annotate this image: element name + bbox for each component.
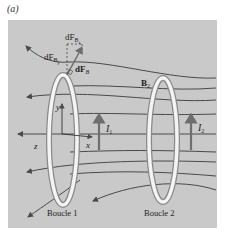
field-line-4 bbox=[70, 113, 216, 114]
label-loop-2: Boucle 2 bbox=[144, 208, 174, 218]
label-dFBy: dFBy bbox=[44, 52, 61, 65]
label-B2: B2 bbox=[141, 78, 150, 89]
label-y-axis: y bbox=[55, 102, 60, 112]
label-loop-1: Boucle 1 bbox=[47, 208, 77, 218]
field-line-7 bbox=[27, 161, 216, 172]
label-I1: I1 bbox=[105, 123, 112, 135]
label-z-axis: z bbox=[33, 141, 38, 151]
label-I2: I2 bbox=[197, 122, 204, 134]
field-line-6 bbox=[70, 151, 216, 153]
loop-2 bbox=[149, 78, 177, 202]
magnetic-field-diagram: dFBz dFBy dFB B2 y z x I1 I2 Boucle 1 Bo… bbox=[0, 0, 229, 234]
label-dFB-vector: dFB bbox=[75, 64, 90, 75]
label-dFBz: dFBz bbox=[65, 32, 81, 45]
field-line-8 bbox=[70, 172, 216, 176]
label-x-axis: x bbox=[85, 140, 90, 150]
